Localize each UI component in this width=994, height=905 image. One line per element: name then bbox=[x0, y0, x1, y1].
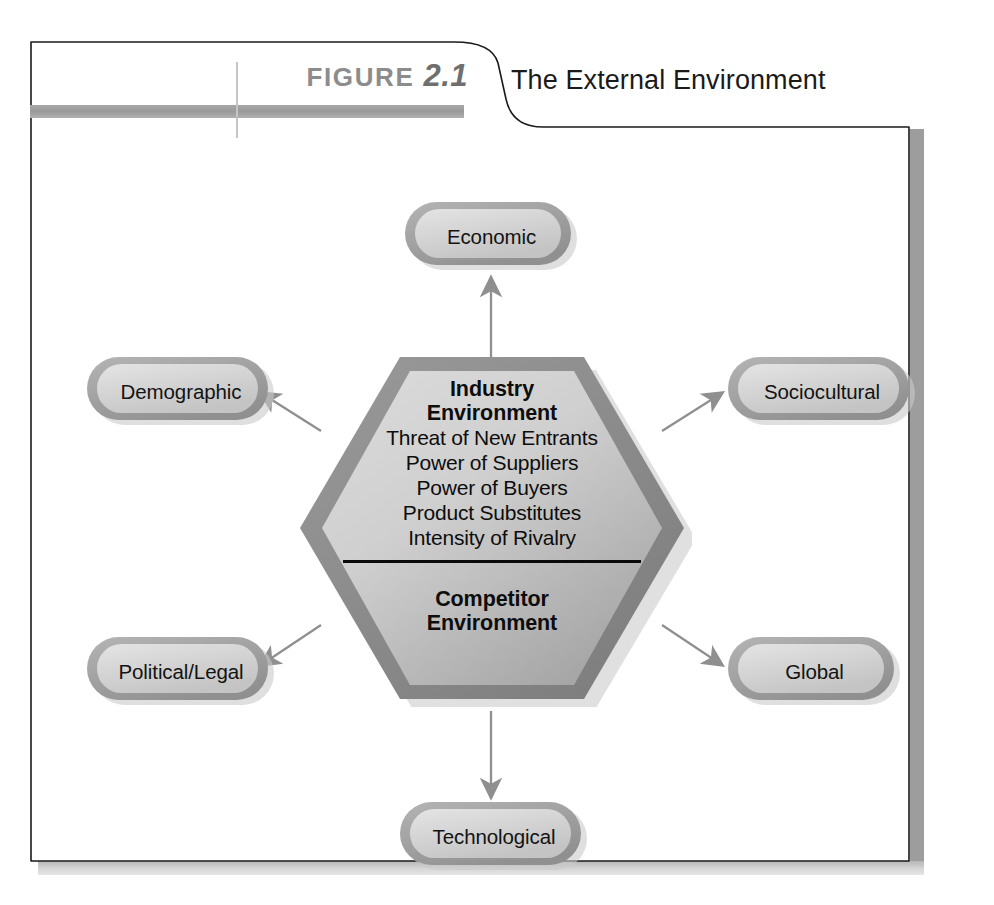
segment-pill-demographic[interactable]: Demographic bbox=[85, 355, 277, 429]
figure-label-number: 2.1 bbox=[423, 58, 468, 93]
segment-pill-political-legal[interactable]: Political/Legal bbox=[85, 635, 277, 709]
segment-label: Demographic bbox=[121, 380, 242, 404]
hexagon-shape bbox=[292, 349, 692, 707]
segment-pill-technological[interactable]: Technological bbox=[398, 800, 590, 874]
segment-label: Political/Legal bbox=[119, 660, 244, 684]
segment-label: Global bbox=[785, 660, 844, 684]
segment-pill-sociocultural[interactable]: Sociocultural bbox=[726, 355, 918, 429]
external-environment-diagram: Industry Environment Threat of New Entra… bbox=[30, 125, 910, 862]
segment-pill-economic[interactable]: Economic bbox=[403, 200, 580, 274]
figure-title: The External Environment bbox=[511, 65, 826, 96]
figure-card: FIGURE2.1 The External Environment bbox=[30, 41, 910, 861]
segment-label: Technological bbox=[433, 825, 556, 849]
segment-label: Economic bbox=[447, 225, 536, 249]
figure-label-word: FIGURE bbox=[307, 62, 415, 92]
figure-card-body: FIGURE2.1 The External Environment bbox=[30, 41, 910, 862]
segment-label: Sociocultural bbox=[764, 380, 880, 404]
card-shadow-right bbox=[910, 129, 924, 875]
figure-rule bbox=[30, 105, 464, 118]
industry-environment-hexagon: Industry Environment Threat of New Entra… bbox=[292, 349, 692, 707]
figure-label: FIGURE2.1 bbox=[228, 58, 468, 94]
segment-pill-global[interactable]: Global bbox=[726, 635, 903, 709]
